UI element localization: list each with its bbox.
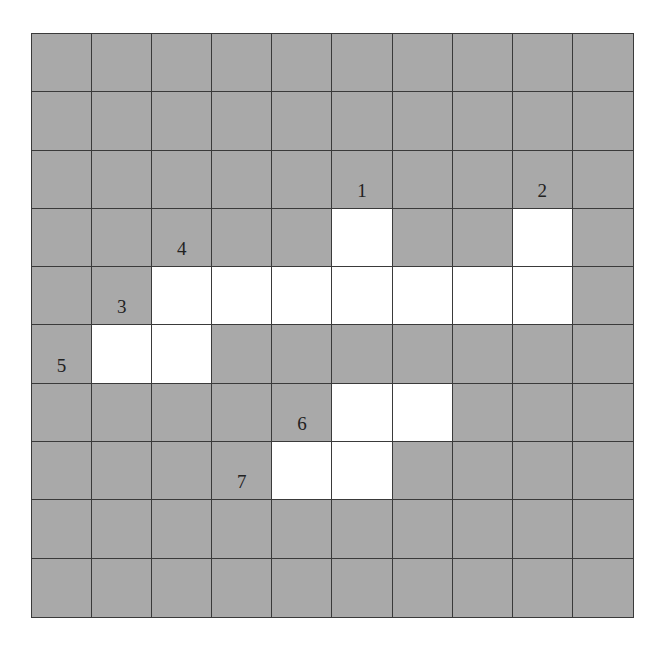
grid-cell-blocked <box>32 151 92 209</box>
clue-number: 7 <box>212 472 271 491</box>
grid-cell-blocked <box>32 267 92 325</box>
grid-cell-blocked <box>152 34 212 92</box>
grid-cell-open[interactable] <box>152 267 212 325</box>
grid-cell-blocked <box>453 442 513 500</box>
grid-cell-open[interactable] <box>272 267 332 325</box>
grid-cell-blocked <box>212 384 272 442</box>
grid-cell-open[interactable] <box>332 384 392 442</box>
grid-cell-blocked <box>453 384 513 442</box>
crossword-grid: 1243567 <box>31 33 634 618</box>
grid-cell-blocked <box>453 325 513 383</box>
grid-cell-blocked <box>272 209 332 267</box>
grid-cell-blocked <box>92 500 152 558</box>
grid-cell-blocked <box>393 92 453 150</box>
grid-cell-blocked <box>272 325 332 383</box>
grid-cell-open[interactable] <box>332 209 392 267</box>
grid-cell-blocked <box>152 442 212 500</box>
grid-cell-blocked <box>513 559 573 617</box>
grid-cell-blocked <box>513 34 573 92</box>
grid-cell-blocked <box>32 500 92 558</box>
grid-cell-blocked <box>573 151 633 209</box>
grid-cell-open[interactable] <box>332 267 392 325</box>
grid-cell-blocked <box>453 151 513 209</box>
grid-cell-blocked <box>332 34 392 92</box>
grid-cell-blocked: 1 <box>332 151 392 209</box>
grid-cell-blocked <box>272 500 332 558</box>
grid-cell-blocked <box>152 500 212 558</box>
grid-cell-blocked <box>573 384 633 442</box>
grid-cell-blocked <box>513 384 573 442</box>
grid-cell-blocked <box>513 325 573 383</box>
grid-cell-open[interactable] <box>513 267 573 325</box>
grid-cell-blocked <box>453 92 513 150</box>
clue-number: 4 <box>152 239 211 258</box>
grid-cell-blocked <box>393 151 453 209</box>
grid-cell-blocked <box>573 92 633 150</box>
grid-cell-blocked <box>573 559 633 617</box>
grid-cell-blocked <box>393 500 453 558</box>
grid-cell-blocked <box>393 209 453 267</box>
grid-cell-blocked <box>272 92 332 150</box>
grid-cell-blocked <box>513 92 573 150</box>
grid-cell-open[interactable] <box>272 442 332 500</box>
grid-cell-blocked <box>92 384 152 442</box>
grid-cell-blocked <box>32 384 92 442</box>
grid-cell-blocked <box>212 209 272 267</box>
grid-cell-blocked <box>453 559 513 617</box>
grid-cell-open[interactable] <box>513 209 573 267</box>
grid-cell-open[interactable] <box>453 267 513 325</box>
grid-cell-blocked <box>393 325 453 383</box>
grid-cell-blocked <box>212 34 272 92</box>
grid-cell-open[interactable] <box>332 442 392 500</box>
grid-cell-blocked: 7 <box>212 442 272 500</box>
grid-cell-blocked <box>573 500 633 558</box>
grid-cell-blocked <box>453 209 513 267</box>
clue-number: 6 <box>272 414 331 433</box>
grid-cell-blocked <box>152 384 212 442</box>
grid-cell-blocked <box>573 209 633 267</box>
grid-cell-blocked <box>332 559 392 617</box>
grid-cell-blocked <box>393 559 453 617</box>
grid-cell-open[interactable] <box>393 384 453 442</box>
grid-cell-blocked <box>152 151 212 209</box>
grid-cell-blocked <box>453 34 513 92</box>
grid-cell-blocked <box>573 442 633 500</box>
clue-number: 2 <box>513 181 572 200</box>
grid-cell-blocked <box>272 151 332 209</box>
grid-cell-blocked <box>92 209 152 267</box>
grid-cell-blocked <box>32 559 92 617</box>
grid-cell-blocked: 6 <box>272 384 332 442</box>
grid-cell-blocked <box>152 559 212 617</box>
grid-cell-blocked <box>453 500 513 558</box>
grid-cell-blocked <box>272 34 332 92</box>
grid-cell-blocked <box>152 92 212 150</box>
grid-cell-blocked: 5 <box>32 325 92 383</box>
grid-cell-open[interactable] <box>212 267 272 325</box>
grid-cell-blocked <box>92 151 152 209</box>
grid-cell-blocked <box>332 325 392 383</box>
grid-cell-blocked <box>212 325 272 383</box>
grid-cell-blocked <box>272 559 332 617</box>
grid-cell-blocked <box>92 442 152 500</box>
grid-cell-open[interactable] <box>393 267 453 325</box>
grid-cell-blocked <box>92 559 152 617</box>
grid-cell-blocked <box>573 267 633 325</box>
grid-cell-blocked <box>32 92 92 150</box>
clue-number: 3 <box>92 297 151 316</box>
grid-cell-blocked <box>212 500 272 558</box>
grid-cell-open[interactable] <box>152 325 212 383</box>
grid-cell-blocked <box>32 209 92 267</box>
grid-cell-blocked <box>32 34 92 92</box>
grid-cell-blocked <box>212 92 272 150</box>
grid-cell-blocked <box>393 34 453 92</box>
grid-cell-blocked <box>92 34 152 92</box>
grid-cell-blocked: 4 <box>152 209 212 267</box>
grid-cell-blocked <box>212 559 272 617</box>
grid-cell-blocked <box>212 151 272 209</box>
grid-cell-open[interactable] <box>92 325 152 383</box>
grid-cell-blocked <box>513 500 573 558</box>
grid-cell-blocked <box>573 34 633 92</box>
grid-cell-blocked: 3 <box>92 267 152 325</box>
grid-cell-blocked: 2 <box>513 151 573 209</box>
clue-number: 1 <box>332 181 391 200</box>
